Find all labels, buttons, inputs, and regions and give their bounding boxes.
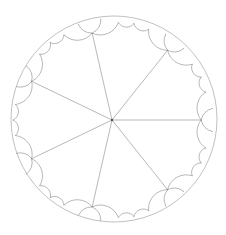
tiling-vertex — [205, 92, 206, 93]
figure-container: Hyperbolic {3,7} triangle tiling in the … — [0, 0, 226, 235]
tiling-vertex — [192, 64, 193, 65]
tiling-vertex — [15, 135, 16, 136]
tiling-vertex — [92, 33, 93, 34]
tiling-vertex — [201, 163, 202, 164]
tiling-vertex — [13, 120, 14, 121]
tiling-vertex — [212, 108, 213, 109]
tiling-vertex — [134, 23, 135, 24]
tiling-vertex — [183, 191, 184, 192]
tiling-vertex — [212, 131, 213, 132]
tiling-vertex — [183, 48, 184, 49]
tiling-vertex — [50, 197, 51, 198]
tiling-vertex — [15, 104, 16, 105]
tiling-vertex — [64, 205, 65, 206]
tiling-vertex — [201, 77, 202, 78]
tiling-vertex — [50, 42, 51, 43]
tiling-vertex — [167, 189, 168, 190]
tiling-vertex — [167, 50, 168, 51]
tiling-vertex — [148, 210, 149, 211]
tiling-vertex — [31, 81, 32, 82]
tiling-vertex — [78, 24, 79, 25]
tiling-vertex — [39, 185, 40, 186]
tiling-vertex — [165, 34, 166, 35]
tiling-vertex — [31, 158, 32, 159]
tiling-vertex — [205, 148, 206, 149]
tiling-vertex — [118, 217, 119, 218]
tiling-vertex — [39, 54, 40, 55]
poincare-disk — [0, 0, 226, 235]
tiling-vertex — [148, 29, 149, 30]
tiling-vertex — [134, 216, 135, 217]
tiling-vertex — [92, 206, 93, 207]
tiling-vertex — [165, 205, 166, 206]
disk-boundary — [11, 16, 217, 222]
tiling-vertex — [201, 120, 202, 121]
tiling-vertex — [64, 35, 65, 36]
tiling-vertex — [192, 175, 193, 176]
tiling-vertex — [100, 19, 101, 20]
tiling-vertex — [118, 22, 119, 23]
tiling-vertex — [111, 119, 113, 121]
